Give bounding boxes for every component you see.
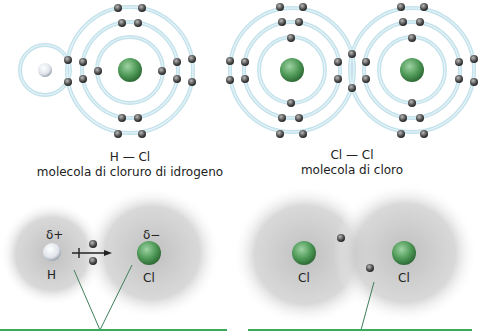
partial-negative-label: δ− [143, 228, 160, 242]
hydrogen-label: H [47, 268, 56, 282]
chlorine-nucleus [118, 58, 142, 82]
cl2-electron-cloud [233, 183, 477, 325]
hcl-name: molecola di cloruro di idrogeno [30, 165, 230, 180]
cl2-name: molecola di cloro [262, 163, 442, 178]
cl2-formula: Cl — Cl [262, 148, 442, 163]
cl2-bohr-model [230, 8, 474, 132]
chlorine-left-label: Cl [298, 271, 310, 285]
hcl-caption: H — Cl molecola di cloruro di idrogeno [30, 150, 230, 180]
chlorine-nucleus-left [280, 58, 304, 82]
chlorine-nucleus-right [400, 58, 424, 82]
chlorine-atom [137, 241, 161, 265]
chlorine-label: Cl [143, 271, 155, 285]
cl2-caption: Cl — Cl molecola di cloro [262, 148, 442, 178]
partial-positive-label: δ+ [46, 228, 63, 242]
hydrogen-atom [43, 243, 61, 261]
chlorine-atom-right [392, 241, 416, 265]
hcl-formula: H — Cl [30, 150, 230, 165]
chlorine-atom-left [292, 241, 316, 265]
hydrogen-nucleus [38, 63, 52, 77]
chlorine-right-label: Cl [398, 271, 410, 285]
